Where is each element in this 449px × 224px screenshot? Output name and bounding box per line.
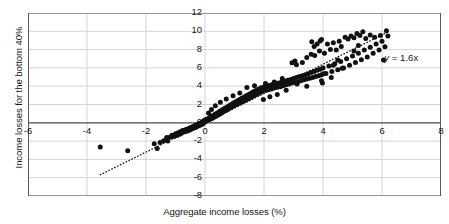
data-point [331,63,336,68]
data-point [359,57,364,62]
data-point [272,80,277,85]
data-point [334,48,339,53]
x-tick-label: -2 [132,125,160,136]
data-point [317,48,322,53]
data-point [312,53,317,58]
data-point [224,97,229,102]
x-tick-label: -4 [73,125,101,136]
data-point [206,110,211,115]
data-point [326,64,331,69]
data-point [309,39,314,44]
data-point [351,35,356,40]
y-tick-label: -4 [0,152,202,163]
data-point [339,44,344,49]
data-point [362,48,367,53]
data-point [378,33,383,38]
data-point [385,33,390,38]
data-point [218,100,223,105]
y-tick-label: 12 [0,6,202,17]
data-point [237,91,242,96]
x-tick-label: -6 [14,125,42,136]
data-point [321,65,326,70]
data-point [380,39,385,44]
x-tick-label: 2 [250,125,278,136]
data-point [280,76,285,81]
data-point [368,32,373,37]
data-point [384,28,389,33]
y-tick-label: 2 [0,98,202,109]
data-point [284,88,289,93]
data-point [347,63,352,68]
data-point [275,92,280,97]
data-point [329,75,334,80]
y-tick-label: 4 [0,79,202,90]
x-tick-label: 8 [427,125,449,136]
x-axis-title: Aggregate income losses (%) [0,206,449,217]
data-point [261,97,266,102]
y-tick-label: 10 [0,24,202,35]
data-point [329,69,334,74]
data-point [337,39,342,44]
data-point [360,29,365,34]
data-point [377,48,382,53]
data-point [263,81,268,86]
data-point [382,44,387,49]
data-point [371,51,376,56]
data-point [213,103,218,108]
data-point [321,71,326,76]
x-tick-label: 4 [309,125,337,136]
data-point [300,60,305,65]
data-point [365,54,370,59]
data-point [325,42,330,47]
x-tick-label: 0 [191,125,219,136]
data-point [320,80,325,85]
data-point [356,43,361,48]
data-point [304,84,309,89]
data-point [335,58,340,63]
x-tick-label: 6 [368,125,396,136]
y-tick-label: 8 [0,43,202,54]
data-point [155,146,160,151]
data-point [331,40,336,45]
data-point [340,66,345,71]
data-point [372,35,377,40]
data-point [356,51,361,56]
data-point [351,48,356,53]
y-tick-label: -6 [0,171,202,182]
equation-body: = 1.6x [389,52,418,63]
data-point [363,36,368,41]
data-point [322,51,327,56]
data-point [328,47,333,52]
data-point [267,94,272,99]
data-point [294,62,299,67]
data-point [374,42,379,47]
y-tick-label: 6 [0,61,202,72]
data-point [344,56,349,61]
data-point [244,85,249,90]
data-point [350,54,355,59]
data-point [252,83,257,88]
scatter-chart-figure: Income losses for the bottom 40% -8-6-4-… [0,0,449,224]
y-tick-label: -8 [0,189,202,200]
data-point [231,93,236,98]
data-point [98,145,103,150]
data-point [335,67,340,72]
data-point [295,81,300,86]
data-point [368,45,373,50]
data-point [353,60,358,65]
trendline-equation-annotation: y = 1.6x [384,52,418,63]
data-point [319,37,324,42]
data-point [304,55,309,60]
